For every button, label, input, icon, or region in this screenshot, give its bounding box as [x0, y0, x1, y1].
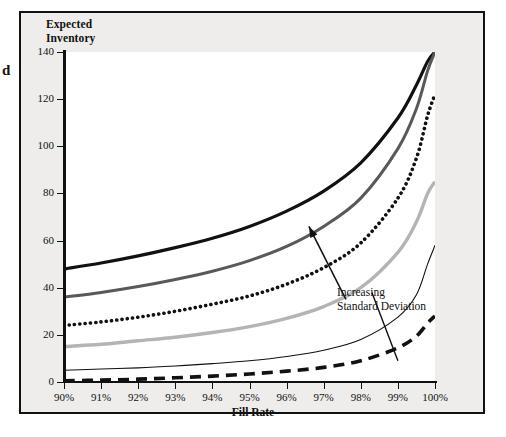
margin-cropped-glyph: d — [2, 62, 14, 78]
y-tick-label: 100 — [24, 140, 54, 151]
y-tick — [57, 99, 63, 100]
y-axis-line — [63, 50, 66, 383]
x-tick — [250, 383, 251, 389]
y-tick-label: 120 — [24, 93, 54, 104]
y-tick — [57, 193, 63, 194]
y-tick — [57, 52, 63, 53]
annotation-increasing-standard-deviation: Increasing Standard Deviation — [337, 285, 426, 313]
x-tick — [64, 383, 65, 389]
y-tick-label: 80 — [24, 187, 54, 198]
curve-sigma-3 — [64, 182, 435, 347]
y-tick-label: 20 — [24, 329, 54, 340]
x-tick — [138, 383, 139, 389]
x-tick — [101, 383, 102, 389]
y-tick — [57, 146, 63, 147]
y-tick-label: 0 — [24, 376, 54, 387]
y-tick-label: 60 — [24, 235, 54, 246]
y-tick — [57, 241, 63, 242]
y-tick-label: 140 — [24, 46, 54, 57]
x-tick — [435, 383, 436, 389]
x-tick-label: 100% — [413, 391, 457, 403]
y-tick — [57, 382, 63, 383]
x-tick — [324, 383, 325, 389]
x-tick — [398, 383, 399, 389]
x-tick — [212, 383, 213, 389]
y-tick — [57, 335, 63, 336]
curves-svg — [64, 52, 435, 382]
curve-sigma-6-highest- — [64, 52, 435, 269]
y-tick-label: 40 — [24, 282, 54, 293]
plot-area — [64, 52, 435, 382]
annotation-line1: Increasing — [337, 285, 426, 299]
x-tick — [361, 383, 362, 389]
x-tick — [287, 383, 288, 389]
x-axis-title: Fill Rate — [0, 406, 506, 418]
x-tick — [175, 383, 176, 389]
chart-figure: d Expected Inventory 020406080100120140 … — [0, 0, 506, 437]
y-tick — [57, 288, 63, 289]
y-axis-tick-labels: 020406080100120140 — [20, 0, 54, 437]
annotation-line2: Standard Deviation — [337, 299, 426, 313]
